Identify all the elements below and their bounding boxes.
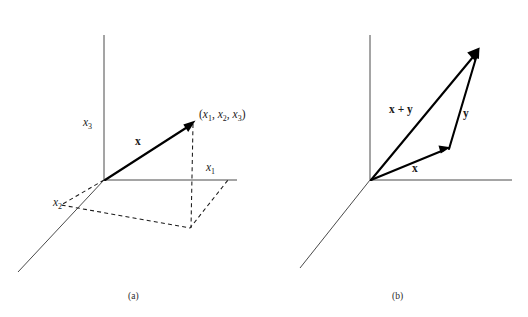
panel-b-graphics (300, 35, 512, 268)
axis-diagonal-line-b (300, 180, 370, 268)
projection-parallelogram (61, 180, 228, 228)
point-coordinate-label: (x1, x2, x3) (199, 109, 246, 123)
panel-b-caption: (b) (392, 292, 403, 302)
axis-label-x2: x2 (53, 197, 62, 211)
vector-label-x-a: x (135, 136, 141, 148)
axis-label-x1-sub: 1 (211, 167, 215, 176)
figure-vector-diagram (0, 0, 528, 317)
figure-root: x3 x1 x2 x (x1, x2, x3) (a) x + y y x (b… (0, 0, 528, 317)
vector-label-y: y (463, 108, 469, 120)
panel-a-graphics (18, 35, 237, 272)
axis-label-x2-sub: 2 (58, 202, 62, 211)
axis-label-x1: x1 (206, 162, 215, 176)
vector-label-x-plus-y: x + y (389, 104, 413, 116)
vector-y-shaft-b (449, 58, 476, 149)
vector-x-shaft-a (105, 126, 189, 180)
vector-x-arrowhead-a (183, 121, 195, 132)
projection-drop-line (191, 124, 193, 228)
vector-x-shaft-b (371, 150, 444, 180)
axis-label-x3-sub: 3 (88, 122, 92, 131)
axis-label-x3: x3 (83, 117, 92, 131)
point-label-close-paren: ) (242, 108, 246, 120)
axis-x2-line (18, 180, 104, 272)
panel-a-caption: (a) (128, 292, 139, 302)
vector-label-x-b: x (412, 163, 418, 175)
